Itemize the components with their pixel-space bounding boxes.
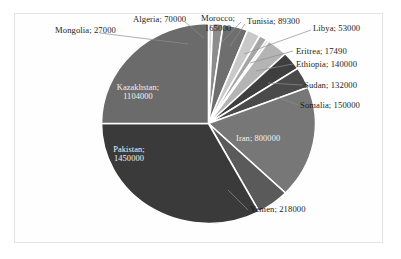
slice-label-mongolia: Mongolia; 27000 bbox=[55, 26, 116, 36]
slice-label-morocco-line2: 165000 bbox=[205, 23, 231, 33]
screenshot-root: Mongolia; 27000 Algeria; 70000 Morocco; … bbox=[0, 0, 401, 259]
pie-svg bbox=[0, 0, 401, 259]
slice-label-libya: Libya; 53000 bbox=[313, 24, 360, 34]
slice-label-morocco: Morocco; 165000 bbox=[197, 14, 239, 33]
slice-label-iran: Iran; 800000 bbox=[236, 134, 280, 143]
slice-label-algeria: Algeria; 70000 bbox=[133, 15, 186, 25]
slice-label-eritrea: Eritrea; 17490 bbox=[296, 47, 347, 57]
slice-label-morocco-line1: Morocco; bbox=[201, 13, 235, 23]
pie-chart: Mongolia; 27000 Algeria; 70000 Morocco; … bbox=[0, 0, 401, 259]
slice-label-kazakhstan: Kazakhstan; 1104000 bbox=[103, 83, 173, 101]
slice-label-tunisia: Tunisia; 89300 bbox=[247, 17, 300, 27]
slice-label-pakistan-line2: 1450000 bbox=[114, 154, 144, 163]
slice-label-sudan: Sudan; 132000 bbox=[304, 81, 357, 91]
pie-slice-kazakhstan bbox=[102, 24, 209, 124]
slice-label-somalia: Somalia; 150000 bbox=[300, 101, 360, 111]
slice-label-pakistan: Pakistan; 1450000 bbox=[96, 145, 162, 163]
slice-label-pakistan-line1: Pakistan; bbox=[113, 145, 145, 154]
slice-label-kazakhstan-line2: 1104000 bbox=[123, 92, 153, 101]
slice-label-ethiopia: Ethiopia; 140000 bbox=[296, 60, 357, 70]
slice-label-yemen: Yemen; 218000 bbox=[250, 205, 306, 215]
slice-label-kazakhstan-line1: Kazakhstan; bbox=[117, 83, 160, 92]
